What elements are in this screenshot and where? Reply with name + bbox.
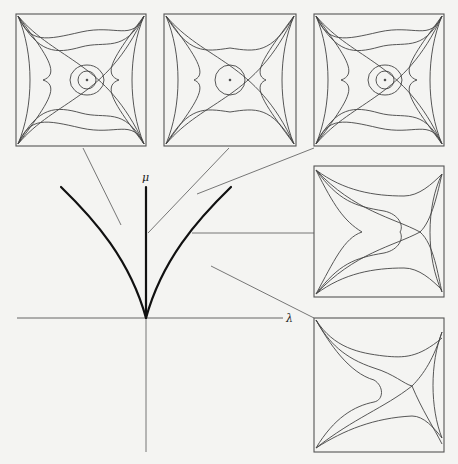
mu-axis-label: μ (142, 171, 149, 184)
phase-portrait-1 (16, 14, 146, 146)
axes: λ μ (17, 171, 293, 452)
right-bifurcation-curve (146, 187, 231, 318)
phase-portrait-5 (314, 318, 444, 452)
phase-portrait-4 (314, 166, 444, 297)
phase-portrait-2 (164, 14, 296, 146)
diagram-svg: λ μ (0, 0, 458, 464)
connector-lines (83, 148, 314, 318)
bifurcation-diagram: λ μ (0, 0, 458, 464)
left-bifurcation-curve (61, 187, 146, 318)
phase-portrait-3 (314, 14, 444, 146)
lambda-axis-label: λ (285, 312, 293, 325)
bifurcation-curves (61, 187, 231, 318)
